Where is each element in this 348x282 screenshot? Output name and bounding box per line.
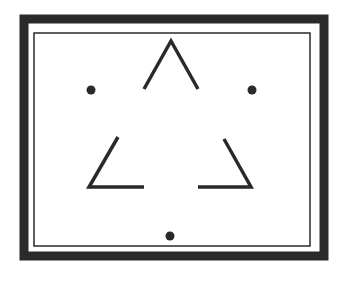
figure-canvas — [0, 0, 348, 282]
left-bottom-angle — [89, 137, 144, 187]
angle-strokes — [89, 41, 251, 187]
dot-bottom — [166, 232, 175, 241]
dot-left — [87, 86, 96, 95]
inner-frame — [34, 33, 310, 246]
dots — [87, 86, 257, 241]
top-apex-angle — [144, 41, 198, 89]
dot-right — [248, 86, 257, 95]
illusory-triangle-figure: Kanizsa-style illusory triangle figure i… — [0, 0, 348, 282]
outer-frame — [24, 19, 324, 256]
right-bottom-angle — [198, 139, 251, 187]
